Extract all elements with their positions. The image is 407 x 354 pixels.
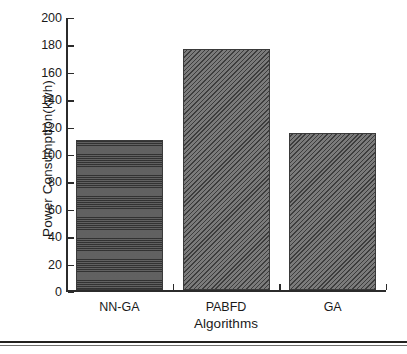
y-tick-180 [68, 45, 74, 46]
y-tick-20 [68, 265, 74, 266]
y-tick-60 [68, 210, 74, 211]
x-tick-label-nn-ga: NN-GA [59, 300, 179, 314]
y-tick-label-80: 80 [2, 175, 62, 189]
page-divider-rule [0, 341, 407, 343]
y-tick-label-20: 20 [2, 258, 62, 272]
y-tick-160 [68, 73, 74, 74]
y-tick-label-60: 60 [2, 203, 62, 217]
y-tick-label-40: 40 [2, 230, 62, 244]
y-tick-100 [68, 155, 74, 156]
y-tick-80 [68, 182, 74, 183]
x-tick-2 [279, 284, 280, 290]
x-axis-line [66, 290, 386, 292]
bar-chart-figure: Power Consumption(kwh) 02040608010012014… [0, 0, 407, 354]
y-tick-label-160: 160 [2, 66, 62, 80]
plot-area: 020406080100120140160180200 NN-GAPABFDGA [66, 18, 386, 292]
page-divider-rule-shadow [0, 345, 407, 346]
y-tick-40 [68, 237, 74, 238]
x-axis-title: Algorithms [66, 316, 386, 331]
y-tick-label-0: 0 [2, 285, 62, 299]
bar-pabfd [183, 49, 270, 290]
x-tick-label-pabfd: PABFD [166, 300, 286, 314]
y-tick-label-180: 180 [2, 38, 62, 52]
x-tick-label-ga: GA [273, 300, 393, 314]
y-tick-label-100: 100 [2, 148, 62, 162]
y-tick-200 [68, 18, 74, 19]
y-tick-label-140: 140 [2, 93, 62, 107]
y-tick-label-200: 200 [2, 11, 62, 25]
x-tick-3 [386, 284, 387, 290]
y-tick-label-120: 120 [2, 121, 62, 135]
y-tick-0 [68, 292, 74, 293]
bar-ga [289, 133, 376, 291]
x-tick-0 [66, 284, 67, 290]
y-tick-120 [68, 128, 74, 129]
y-tick-140 [68, 100, 74, 101]
bar-nn-ga [76, 140, 163, 291]
x-tick-1 [173, 284, 174, 290]
